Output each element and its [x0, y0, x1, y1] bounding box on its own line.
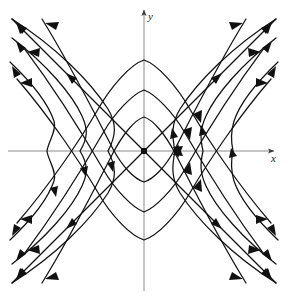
flow-arrow-up3-right	[256, 215, 268, 224]
flow-arrow-up3-left	[20, 215, 32, 224]
flow-arrow-rt2-up	[262, 41, 272, 53]
flow-arrow-dn1-right	[229, 22, 243, 30]
y-axis-label: y	[148, 11, 153, 22]
flow-arrow-up1-left	[45, 272, 59, 280]
flow-arrow-lt2-dn	[16, 249, 26, 261]
flow-arrow-up1-right	[229, 272, 243, 280]
flow-arrow-dn3-right	[256, 78, 268, 87]
flow-arrow-dn3-left	[20, 78, 32, 87]
flow-arrow-dn1-left	[45, 22, 59, 30]
flow-arrow-lt2-up	[16, 41, 26, 53]
equilibrium-point-marker	[141, 148, 147, 154]
phase-portrait-figure: y x	[0, 0, 292, 300]
x-axis-label: x	[271, 153, 276, 164]
flow-arrow-rt1-vertex	[170, 128, 178, 139]
flow-arrow-rt2-dn	[262, 249, 272, 261]
phase-portrait-canvas	[0, 0, 292, 300]
